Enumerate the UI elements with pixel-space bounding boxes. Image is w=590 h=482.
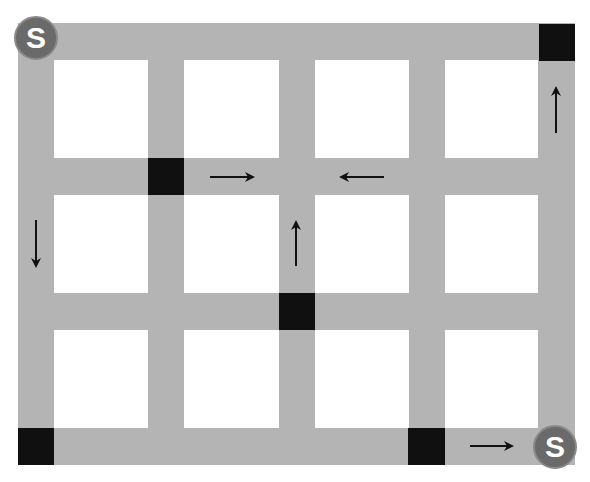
street-grid-diagram: SS	[0, 0, 590, 482]
start-marker: S	[533, 425, 577, 469]
arrows-layer	[0, 0, 590, 482]
start-marker: S	[14, 16, 58, 60]
